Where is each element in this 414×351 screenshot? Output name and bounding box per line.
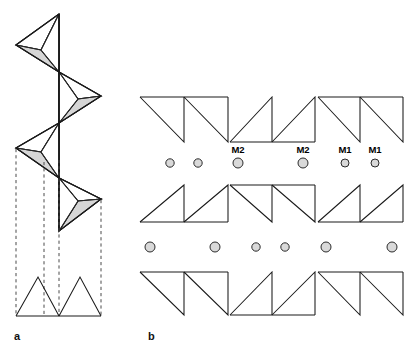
triangle-r0-c0-right xyxy=(184,97,228,142)
figure-canvas: a xyxy=(0,0,414,351)
cation-site-r1-0 xyxy=(145,242,155,252)
triangle-pair-r2-c2 xyxy=(318,272,403,315)
site-label-m2-left: M2 xyxy=(231,144,244,155)
triangle-r0-c0-left xyxy=(140,97,184,142)
triangle-r1-c2-left xyxy=(318,185,360,222)
cation-site-r1-3 xyxy=(281,243,289,251)
triangle-r0-c1-left xyxy=(230,97,272,142)
site-label-m1-left: M1 xyxy=(338,144,352,155)
cation-row-0: M2 M2 M1 M1 xyxy=(166,144,383,168)
triangle-r2-c1-left xyxy=(230,272,272,315)
triangle-r1-c0-left xyxy=(140,185,184,222)
triangle-r2-c0-left xyxy=(140,272,184,315)
site-label-m2-right: M2 xyxy=(296,144,309,155)
triangle-r0-c1-right xyxy=(272,97,315,142)
triangle-r2-c1-right xyxy=(272,272,315,315)
cation-site-r1-1 xyxy=(210,242,220,252)
cation-site-r0-4 xyxy=(341,159,349,167)
cation-site-r1-4 xyxy=(321,242,331,252)
tetrahedron-0 xyxy=(16,14,59,72)
panel-label-b: b xyxy=(148,330,155,342)
plan-triangle-left xyxy=(16,277,59,316)
triangle-pair-r2-c1 xyxy=(230,272,315,315)
panel-b-row-1 xyxy=(140,185,403,222)
cation-site-r1-5 xyxy=(387,242,397,252)
cation-site-r0-0 xyxy=(166,159,174,167)
tetrahedron-2 xyxy=(16,123,59,178)
triangle-r2-c0-right xyxy=(184,272,228,315)
triangle-r0-c2-right xyxy=(360,97,403,142)
panel-a: a xyxy=(14,14,101,342)
triangle-r2-c2-left xyxy=(318,272,360,315)
triangle-pair-r0-c1 xyxy=(230,97,315,142)
triangle-r2-c2-right xyxy=(360,272,403,315)
site-label-m1-right: M1 xyxy=(368,144,382,155)
triangle-pair-r0-c2 xyxy=(318,97,403,142)
panel-b: M2 M2 M1 M1 xyxy=(140,97,403,342)
triangle-r1-c0-right xyxy=(184,185,228,222)
triangle-r0-c2-left xyxy=(318,97,360,142)
triangle-pair-r0-c0 xyxy=(140,97,228,142)
cation-site-r0-5 xyxy=(371,159,379,167)
triangle-pair-r1-c1 xyxy=(230,185,315,222)
figure-root: a xyxy=(0,0,414,351)
triangle-pair-r2-c0 xyxy=(140,272,228,315)
cation-site-r0-1 xyxy=(194,159,202,167)
panel-b-row-0 xyxy=(140,97,403,142)
plan-triangle-right xyxy=(59,277,101,316)
triangle-r1-c1-left xyxy=(230,185,272,222)
cation-site-r0-3 xyxy=(298,158,308,168)
triangle-pair-r1-c2 xyxy=(318,185,403,222)
tetrahedron-1 xyxy=(59,72,101,123)
panel-b-row-2 xyxy=(140,272,403,315)
triangle-r1-c1-right xyxy=(272,185,315,222)
triangle-r1-c2-right xyxy=(360,185,403,222)
triangle-pair-r1-c0 xyxy=(140,185,228,222)
cation-site-r1-2 xyxy=(252,243,260,251)
panel-label-a: a xyxy=(14,330,21,342)
cation-site-r0-2 xyxy=(233,158,243,168)
cation-row-1 xyxy=(145,242,397,252)
tetrahedron-3 xyxy=(59,178,101,231)
